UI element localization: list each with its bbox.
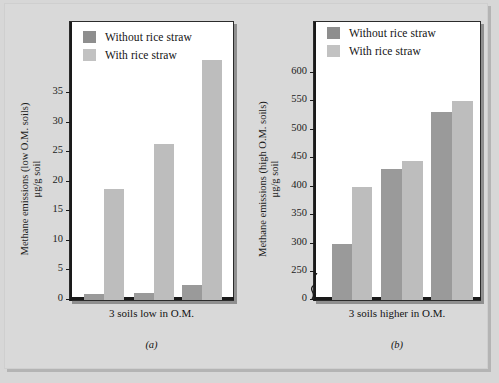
panel-a-y-axis-line (70, 22, 72, 301)
bar-with-rice-straw-soil-1 (352, 187, 372, 300)
bar-without-rice-straw-soil-3 (182, 285, 202, 300)
bar-without-rice-straw-soil-1 (332, 244, 352, 300)
panel-a-tick-25 (66, 151, 71, 152)
panel-b: Methane emissions (high O.M. soils) μg/g… (245, 4, 489, 370)
panel-b-ticklabel-400: 400 (277, 180, 307, 190)
panel-a-legend: Without rice straw With rice straw (83, 31, 192, 67)
bar-without-rice-straw-soil-2 (134, 293, 154, 300)
panel-b-tick-300 (310, 243, 315, 244)
panel-b-plot-area: Without rice straw With rice straw (313, 21, 481, 301)
bar-with-rice-straw-soil-2 (154, 144, 174, 300)
panel-b-y-axis-title-line2: μg/g soil (269, 161, 280, 198)
panel-a-tick-30 (66, 122, 71, 123)
panel-a-legend-label-with: With rice straw (105, 49, 177, 61)
legend-swatch-with-rice-straw-icon (83, 49, 96, 61)
panel-a-ticklabel-15: 15 (43, 204, 63, 214)
panel-a-tick-5 (66, 269, 71, 270)
panel-a-y-axis-title-line2: μg/g soil (31, 161, 42, 198)
panel-a-y-axis-title: Methane emissions (low O.M. soils) μg/g … (19, 64, 42, 294)
panel-b-tick-400 (310, 186, 315, 187)
panel-a-ticklabel-0: 0 (43, 293, 63, 303)
panel-b-legend-item-with: With rice straw (327, 45, 436, 57)
panel-a-legend-label-without: Without rice straw (105, 31, 192, 43)
panel-a-ticklabel-30: 30 (43, 116, 63, 126)
panel-a-ticklabel-20: 20 (43, 175, 63, 185)
panel-b-ticklabel-500: 500 (277, 123, 307, 133)
panel-a-ticklabel-35: 35 (43, 86, 63, 96)
panel-b-ticklabel-350: 350 (277, 208, 307, 218)
panel-b-ticklabel-250: 250 (277, 265, 307, 275)
panel-b-legend-item-without: Without rice straw (327, 27, 436, 39)
legend-swatch-without-rice-straw-icon (327, 27, 340, 39)
panel-a-tick-15 (66, 210, 71, 211)
panel-b-legend: Without rice straw With rice straw (327, 27, 436, 63)
panel-a-tick-20 (66, 181, 71, 182)
panel-b-ticklabel-300: 300 (277, 237, 307, 247)
panel-a-legend-item-with: With rice straw (83, 49, 192, 61)
panel-b-axis-break-icon (309, 273, 321, 299)
legend-swatch-without-rice-straw-icon (83, 31, 96, 43)
panel-a-caption: (a) (69, 339, 234, 350)
panel-a-ticklabel-5: 5 (43, 263, 63, 273)
bar-with-rice-straw-soil-3 (452, 101, 473, 300)
bar-with-rice-straw-soil-2 (402, 161, 423, 300)
panel-a-plot-area: Without rice straw With rice straw (69, 21, 234, 301)
panel-b-legend-label-without: Without rice straw (349, 27, 436, 39)
panel-b-tick-450 (310, 157, 315, 158)
panel-b-tick-350 (310, 214, 315, 215)
panel-a-legend-item-without: Without rice straw (83, 31, 192, 43)
panel-a-x-axis-label: 3 soils low in O.M. (69, 307, 234, 319)
panel-b-tick-0 (310, 299, 315, 300)
panel-b-ticklabel-550: 550 (277, 94, 307, 104)
panel-a-tick-0 (66, 299, 71, 300)
figure-page: Methane emissions (low O.M. soils) μg/g … (0, 0, 499, 383)
panel-b-y-axis-title-line1: Methane emissions (high O.M. soils) (257, 101, 268, 257)
bar-with-rice-straw-soil-3 (202, 60, 222, 300)
panel-b-caption: (b) (313, 339, 481, 350)
panel-a-y-axis-title-line1: Methane emissions (low O.M. soils) (19, 103, 30, 256)
panel-b-tick-500 (310, 129, 315, 130)
panel-a-ticklabel-25: 25 (43, 145, 63, 155)
panel-b-ticklabel-600: 600 (277, 66, 307, 76)
panel-b-ticklabel-450: 450 (277, 151, 307, 161)
panel-b-tick-250 (310, 271, 315, 272)
panel-b-tick-600 (310, 72, 315, 73)
bar-without-rice-straw-soil-1 (84, 294, 104, 300)
panel-b-legend-label-with: With rice straw (349, 45, 421, 57)
panel-b-y-axis-line (314, 22, 316, 301)
panel-b-ticklabel-0: 0 (277, 293, 307, 303)
panel-b-x-axis-label: 3 soils higher in O.M. (313, 307, 481, 319)
bar-without-rice-straw-soil-3 (431, 112, 452, 300)
figure-sheet: Methane emissions (low O.M. soils) μg/g … (4, 3, 488, 369)
bar-with-rice-straw-soil-1 (104, 189, 124, 300)
bar-without-rice-straw-soil-2 (381, 169, 402, 300)
panel-a-tick-10 (66, 240, 71, 241)
panel-b-tick-550 (310, 100, 315, 101)
panel-a-ticklabel-10: 10 (43, 234, 63, 244)
legend-swatch-with-rice-straw-icon (327, 45, 340, 57)
panel-a-tick-35 (66, 92, 71, 93)
panel-a: Methane emissions (low O.M. soils) μg/g … (5, 4, 245, 370)
